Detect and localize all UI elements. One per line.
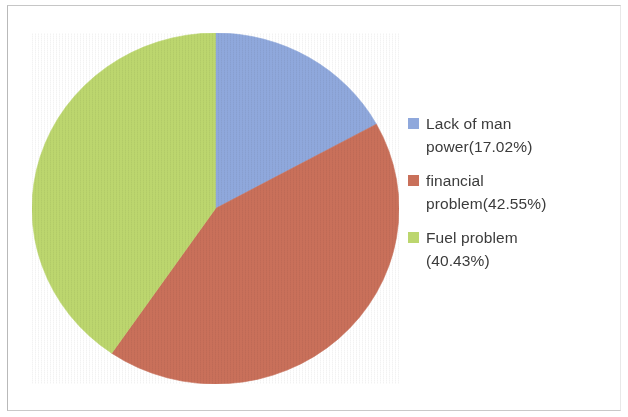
legend-swatch-icon-blue [408,118,419,129]
legend-item-fuel-problem[interactable]: Fuel problem (40.43%) [408,226,613,272]
pie-chart [32,33,399,384]
pie-chart-svg [32,33,399,384]
legend-label-financial-problem: financial problem(42.55%) [426,169,546,215]
legend-label-lack-of-man-power: Lack of man power(17.02%) [426,112,532,158]
legend-item-financial-problem[interactable]: financial problem(42.55%) [408,169,613,215]
legend-swatch-icon-green [408,232,419,243]
chart-legend: Lack of man power(17.02%) financial prob… [408,112,613,283]
pie-slice-group [32,33,399,384]
legend-label-fuel-problem: Fuel problem (40.43%) [426,226,518,272]
pie-chart-page: Lack of man power(17.02%) financial prob… [0,0,628,417]
legend-item-lack-of-man-power[interactable]: Lack of man power(17.02%) [408,112,613,158]
legend-swatch-icon-red [408,175,419,186]
